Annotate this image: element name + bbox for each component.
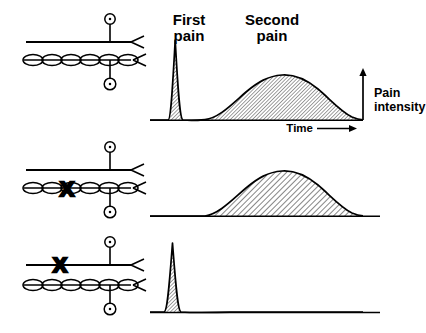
cell-body-icon bbox=[104, 303, 116, 315]
first-pain-label-line2: pain bbox=[174, 27, 205, 44]
pain-intensity-label-line2: intensity bbox=[374, 100, 425, 114]
first-pain-label-line1: First bbox=[173, 11, 206, 28]
cell-body-icon bbox=[104, 206, 116, 218]
cell-body-icon bbox=[105, 142, 115, 152]
pain-waveform-row2 bbox=[150, 171, 380, 216]
panel-a-delta-blocked: X bbox=[23, 142, 380, 218]
pain-pathway-figure: First pain Second pain Pain intensity Ti… bbox=[0, 0, 426, 333]
pain-waveform-row1 bbox=[150, 40, 363, 121]
nerve-diagram-row3: X bbox=[23, 237, 146, 315]
cell-body-icon bbox=[105, 14, 115, 24]
unmyelinated-c-fiber-row2 bbox=[26, 142, 144, 176]
time-label: Time bbox=[286, 122, 313, 134]
free-nerve-ending-icon bbox=[131, 259, 144, 271]
cell-body-icon bbox=[104, 78, 116, 90]
pain-intensity-axis bbox=[359, 68, 366, 120]
myelinated-a-delta-fiber-row2: X bbox=[23, 177, 146, 218]
free-nerve-ending-icon bbox=[131, 164, 144, 176]
pain-intensity-label-line1: Pain bbox=[374, 86, 400, 100]
free-nerve-ending-icon bbox=[131, 36, 144, 48]
nerve-diagram-row2: X bbox=[23, 142, 146, 218]
pain-waveform-row3 bbox=[150, 243, 380, 313]
panel-intact-fibers: First pain Second pain Pain intensity Ti… bbox=[23, 11, 425, 134]
second-pain-label-line1: Second bbox=[245, 11, 299, 28]
block-marker-a-delta: X bbox=[60, 177, 74, 200]
nerve-diagram-row1 bbox=[23, 14, 146, 90]
myelinated-a-delta-fiber-row3 bbox=[23, 279, 146, 315]
unmyelinated-c-fiber-row3: X bbox=[26, 237, 144, 276]
time-axis bbox=[317, 125, 357, 132]
block-marker-c-fiber: X bbox=[53, 253, 67, 276]
myelinated-a-delta-fiber-row1 bbox=[23, 54, 146, 90]
second-pain-label-line2: pain bbox=[257, 27, 288, 44]
panel-c-fiber-blocked: X bbox=[23, 237, 380, 315]
cell-body-icon bbox=[105, 237, 115, 247]
unmyelinated-c-fiber-row1 bbox=[26, 14, 144, 48]
